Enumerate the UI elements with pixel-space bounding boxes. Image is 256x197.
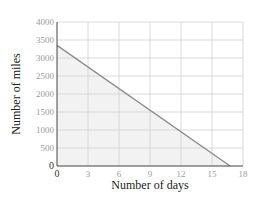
y-tick-label: 1500 [36,107,55,117]
y-tick-label: 3500 [36,35,55,45]
y-tick-label: 1000 [36,125,55,135]
y-tick-label: 3000 [36,53,55,63]
y-tick-label: 500 [41,143,55,153]
y-tick-label: 2500 [36,71,55,81]
x-tick-label: 3 [86,169,91,179]
x-tick-label: 15 [208,169,218,179]
y-tick-label: 0 [49,160,54,171]
x-tick-label: 0 [55,168,60,179]
y-axis-label: Number of miles [9,53,23,135]
line-chart: 05001000150020002500300035004000 0369121… [0,0,256,197]
y-tick-label: 2000 [36,89,55,99]
x-axis-label: Number of days [111,178,189,192]
y-tick-label: 4000 [36,17,55,27]
x-tick-label: 18 [239,169,249,179]
y-tick-labels: 05001000150020002500300035004000 [36,17,55,171]
